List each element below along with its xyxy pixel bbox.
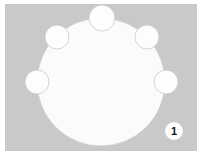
figure-root: 1 xyxy=(0,0,203,159)
node-top xyxy=(89,5,115,31)
node-mid-left xyxy=(25,70,49,94)
callout-badge xyxy=(165,122,183,140)
figure-canvas xyxy=(0,0,203,159)
figure-drawing-group xyxy=(25,5,183,146)
node-upper-right xyxy=(135,25,159,49)
node-mid-right xyxy=(154,70,178,94)
node-upper-left xyxy=(45,25,69,49)
